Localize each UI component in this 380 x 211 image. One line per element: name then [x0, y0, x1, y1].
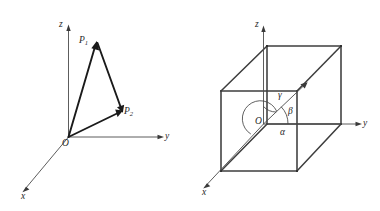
figure-root: z y x O P1 P2 z y x O γ β α — [0, 0, 380, 211]
vector-o-to-p2 — [69, 110, 124, 137]
right-x-axis-label: x — [202, 188, 206, 198]
cube-edge-depth-top-left — [221, 46, 267, 91]
point-p2-subscript: 2 — [130, 110, 133, 117]
vector-o-to-p1 — [69, 41, 100, 137]
left-y-axis-label: y — [165, 132, 169, 142]
point-p1-label: P1 — [79, 36, 88, 46]
cube-vertex — [296, 170, 298, 172]
left-x-axis-label: x — [21, 192, 25, 202]
cube-depth-edges — [221, 46, 341, 171]
figure-canvas — [0, 0, 380, 211]
point-p2-base: P — [124, 106, 130, 116]
left-y-axis-arrowhead — [158, 135, 165, 139]
right-y-axis-arrowhead — [356, 122, 363, 126]
triangle-panel-group — [22, 25, 164, 193]
right-z-axis-arrowhead — [261, 26, 265, 33]
right-z-axis-label: z — [255, 20, 259, 30]
beta-angle-arc — [281, 107, 288, 124]
alpha-angle-label: α — [280, 128, 285, 138]
cube-vertex — [340, 45, 342, 47]
left-z-axis-label: z — [59, 20, 63, 30]
cube-edge-depth-bottom-left — [221, 124, 267, 171]
vector-o-p1-line — [69, 46, 96, 137]
cube-edge-depth-bottom-right — [297, 124, 341, 171]
gamma-angle-label: γ — [278, 91, 282, 101]
left-origin-label: O — [62, 139, 69, 149]
cube-vertex — [266, 45, 268, 47]
right-x-axis-line — [207, 124, 264, 185]
point-p2-label: P2 — [124, 107, 133, 117]
right-y-axis — [264, 122, 363, 126]
beta-angle-label: β — [288, 107, 293, 117]
right-x-axis — [203, 124, 263, 189]
left-z-axis-arrowhead — [66, 25, 70, 32]
point-p1-subscript: 1 — [85, 39, 88, 46]
right-z-axis — [261, 26, 265, 125]
cube-panel-group — [203, 26, 362, 189]
right-origin-label: O — [255, 117, 262, 127]
segment-p1-p2-line — [98, 43, 122, 108]
right-y-axis-label: y — [363, 119, 367, 129]
left-z-axis — [66, 25, 70, 138]
left-y-axis — [69, 135, 165, 139]
segment-p1-to-p2 — [98, 43, 125, 113]
vector-o-p2-line — [69, 113, 119, 137]
point-p1-base: P — [79, 35, 85, 45]
